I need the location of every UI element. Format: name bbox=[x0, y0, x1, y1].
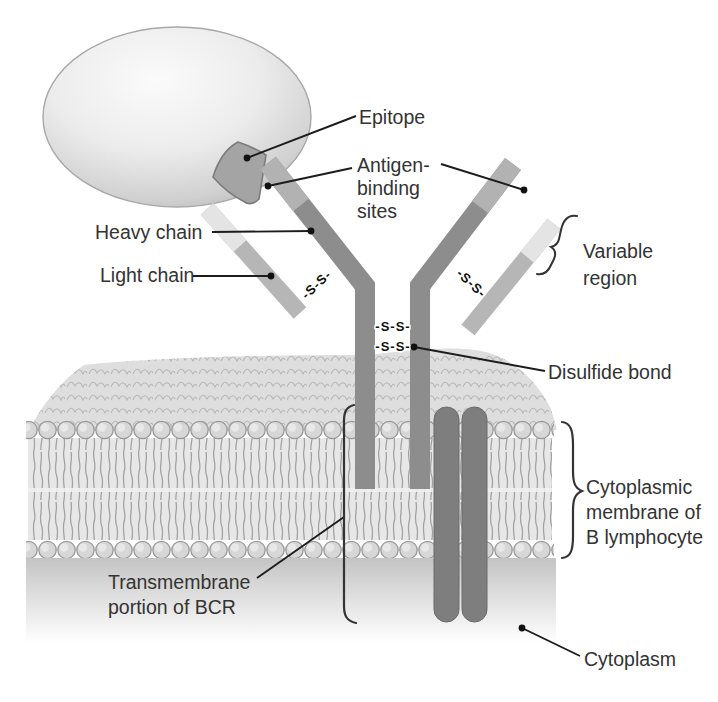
disulfide-text-stem-upper: -S-S- bbox=[375, 319, 410, 334]
disulfide-bond-dot bbox=[411, 344, 418, 351]
membrane-brace bbox=[562, 422, 582, 558]
antigen-binding-dot-right bbox=[521, 187, 528, 194]
heavy-chain-leader bbox=[212, 231, 311, 232]
bcr-diagram: -S-S- -S-S- -S-S- -S-S- Epitope Antigen-… bbox=[0, 0, 718, 702]
ig-alpha-rod bbox=[434, 407, 459, 622]
membrane-label-line1: Cytoplasmic bbox=[586, 476, 692, 498]
disulfide-bond-label: Disulfide bond bbox=[548, 361, 672, 383]
heavy-chain-label: Heavy chain bbox=[95, 221, 202, 243]
light-chain-label: Light chain bbox=[100, 264, 194, 286]
epitope-leader-dot bbox=[244, 155, 251, 162]
bcr-diagram-canvas: -S-S- -S-S- -S-S- -S-S- Epitope Antigen-… bbox=[0, 0, 718, 702]
light-chain-dot bbox=[268, 273, 275, 280]
membrane-label-line3: B lymphocyte bbox=[586, 526, 703, 548]
membrane-label-line2: membrane of bbox=[586, 501, 701, 523]
heavy-chain-dot bbox=[308, 228, 315, 235]
variable-region-label-line1: Variable bbox=[583, 240, 653, 262]
cytoplasm-dot bbox=[519, 625, 526, 632]
light-chain-left-variable-tip bbox=[207, 209, 240, 246]
cytoplasm-label: Cytoplasm bbox=[584, 648, 676, 670]
antigen-binding-label-line1: Antigen- bbox=[357, 154, 430, 176]
antigen-binding-label-line2: binding bbox=[357, 177, 420, 199]
transmembrane-label-line2: portion of BCR bbox=[108, 596, 236, 618]
light-chain-right-variable-tip bbox=[527, 224, 554, 257]
disulfide-text-arm-right: -S-S- bbox=[454, 266, 490, 301]
transmembrane-label-line1: Transmembrane bbox=[108, 571, 250, 593]
disulfide-text-stem-lower: -S-S- bbox=[375, 339, 410, 354]
ig-beta-rod bbox=[462, 407, 487, 622]
antigen-binding-label-line3: sites bbox=[357, 200, 397, 222]
antigen-binding-dot-left bbox=[265, 183, 272, 190]
epitope-label: Epitope bbox=[359, 106, 425, 128]
variable-region-label-line2: region bbox=[583, 267, 637, 289]
disulfide-text-arm-left: -S-S- bbox=[298, 267, 334, 302]
